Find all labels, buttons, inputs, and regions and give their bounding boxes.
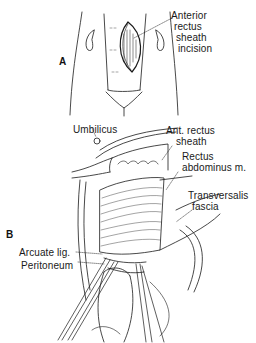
panel-a-torso <box>70 12 178 116</box>
panel-letter-b: B <box>6 229 13 240</box>
label-transversalis-fascia: Transversalis fascia <box>188 190 248 212</box>
label-ant-rectus-sheath: Ant. rectus sheath <box>166 125 215 147</box>
panel-letter-a: A <box>59 56 66 67</box>
label-anterior-rectus-sheath-incision: Anterior rectus sheath incision <box>171 10 212 54</box>
label-rectus-abdominus: Rectus abdominus m. <box>182 151 246 173</box>
label-arcuate-lig: Arcuate lig. <box>19 247 70 258</box>
label-peritoneum: Peritoneum <box>21 260 73 271</box>
label-umbilicus: Umbilicus <box>73 124 117 135</box>
